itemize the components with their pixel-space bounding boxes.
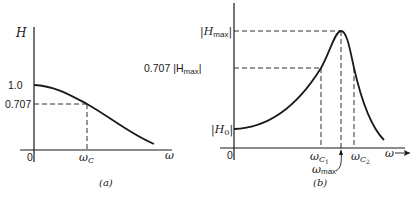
plot-b-tick-0707-hmax: 0.707 |Hmax| [144,62,201,76]
plot-a-y-label: H [15,26,27,40]
plot-b-x-label: ω [385,147,394,160]
plot-b-caption: (b) [313,177,327,188]
plot-b-max-pointer-head [339,149,343,155]
plot-b-origin: 0 [227,149,233,161]
plot-a-x-label: ω [165,149,174,162]
plot-a-tick-1: 1.0 [8,79,23,91]
plot-a-caption: (a) [99,177,113,188]
plot-a-cutoff-label: ωC [79,151,94,165]
plot-a-tick-0707: 0.707 [5,98,31,110]
plot-a: H 1.0 0.707 0 ωC ω (a) [5,26,174,188]
plot-b-tick-h0: |H0| [211,123,233,137]
plot-b-c2-label: ωC2 [351,150,370,165]
plot-a-origin: 0 [27,151,33,163]
plot-b: |Hmax| 0.707 |Hmax| |H0| 0 ωC1 ωC2 ω ωma… [144,3,410,188]
plot-b-resonance-curve [234,31,384,140]
plot-a-lowpass-curve [34,85,154,144]
frequency-response-figure: H 1.0 0.707 0 ωC ω (a) |Hmax| 0.707 |Hma… [0,0,419,198]
plot-b-tick-hmax: |Hmax| [200,25,232,39]
plot-b-max-label: ωmax [312,163,336,176]
